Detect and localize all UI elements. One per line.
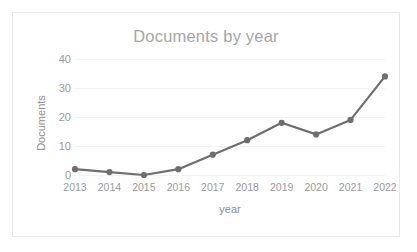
data-point-marker xyxy=(279,120,285,126)
gridline xyxy=(75,175,385,176)
data-point-marker xyxy=(382,73,388,79)
data-point-marker xyxy=(347,117,353,123)
data-point-marker xyxy=(106,169,112,175)
series-line xyxy=(75,76,385,175)
y-tick-label: 40 xyxy=(37,53,71,65)
chart-title: Documents by year xyxy=(13,27,399,46)
x-axis-tick-labels: 2013201420152016201720182019202020212022 xyxy=(75,181,385,197)
line-series xyxy=(75,59,385,175)
x-axis-title: year xyxy=(75,203,385,215)
data-point-marker xyxy=(141,172,147,178)
chart-container: Documents by year 010203040 Documents 20… xyxy=(12,12,400,237)
data-point-marker xyxy=(244,137,250,143)
data-point-marker xyxy=(175,166,181,172)
y-axis-title: Documents xyxy=(35,73,47,173)
x-tick-label: 2022 xyxy=(365,181,405,193)
data-point-marker xyxy=(210,152,216,158)
data-point-marker xyxy=(313,131,319,137)
plot-area xyxy=(75,59,385,175)
data-point-marker xyxy=(72,166,78,172)
